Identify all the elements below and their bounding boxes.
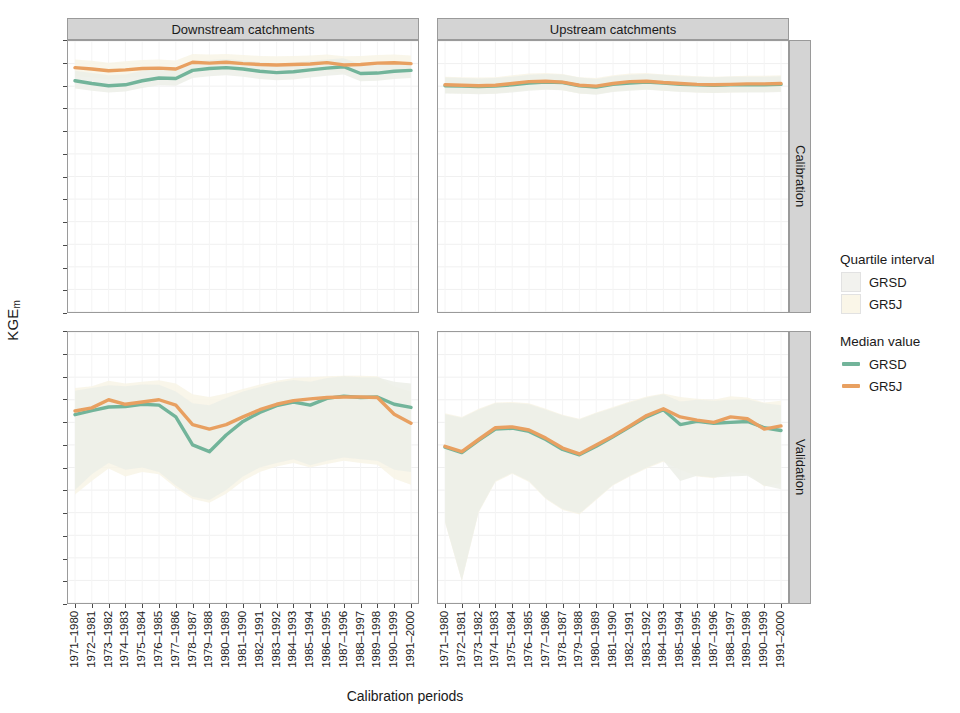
- panel-plot-area: [68, 332, 418, 603]
- x-tick-mark: [92, 604, 93, 608]
- x-tick-label: 1985–1994: [303, 611, 315, 668]
- x-tick-mark: [512, 604, 513, 608]
- x-tick-label: 1981–1990: [606, 611, 618, 668]
- legend-line-glyph: [842, 384, 860, 388]
- x-tick-mark: [747, 604, 748, 608]
- y-tick-mark: [63, 199, 67, 200]
- legend-item[interactable]: GRSD: [840, 271, 935, 293]
- y-tick-mark: [63, 177, 67, 178]
- x-tick-mark: [596, 604, 597, 608]
- x-tick-mark: [125, 604, 126, 608]
- x-tick-mark: [293, 604, 294, 608]
- legend-item[interactable]: GR5J: [840, 293, 935, 315]
- y-tick-mark: [63, 377, 67, 378]
- x-tick-mark: [613, 604, 614, 608]
- x-tick-mark: [697, 604, 698, 608]
- y-tick-mark: [63, 40, 67, 41]
- x-tick-mark: [109, 604, 110, 608]
- legend-swatch-icon: [840, 271, 862, 293]
- x-tick-label: 1972–1981: [455, 611, 467, 668]
- x-tick-mark: [546, 604, 547, 608]
- x-tick-mark: [209, 604, 210, 608]
- y-tick-mark: [63, 536, 67, 537]
- x-tick-label: 1971–1980: [68, 611, 80, 668]
- strip-label-validation: Validation: [789, 331, 811, 604]
- x-tick-label: 1973–1982: [102, 611, 114, 668]
- legend-item[interactable]: GRSD: [840, 353, 920, 375]
- x-tick-mark: [462, 604, 463, 608]
- x-tick-label: 1979–1988: [202, 611, 214, 668]
- x-tick-label: 1982–1991: [253, 611, 265, 668]
- y-axis-title: KGEm: [4, 300, 22, 341]
- x-tick-mark: [344, 604, 345, 608]
- panel-plot-area: [438, 41, 788, 312]
- x-tick-mark: [377, 604, 378, 608]
- x-tick-label: 1982–1991: [623, 611, 635, 668]
- strip-label-downstream: Downstream catchments: [67, 18, 419, 40]
- panel-calibration-downstream: [67, 40, 419, 313]
- x-tick-label: 1984–1993: [286, 611, 298, 668]
- y-tick-mark: [63, 513, 67, 514]
- legend-item[interactable]: GR5J: [840, 375, 920, 397]
- x-tick-label: 1976–1985: [152, 611, 164, 668]
- strip-label-calibration-text: Calibration: [793, 145, 808, 207]
- x-tick-mark: [159, 604, 160, 608]
- x-tick-label: 1977–1986: [169, 611, 181, 668]
- x-tick-label: 1980–1989: [219, 611, 231, 668]
- x-tick-mark: [663, 604, 664, 608]
- x-tick-label: 1974–1983: [488, 611, 500, 668]
- x-tick-mark: [630, 604, 631, 608]
- x-tick-label: 1987–1996: [707, 611, 719, 668]
- legend-line-glyph: [842, 362, 860, 366]
- x-tick-mark: [226, 604, 227, 608]
- x-tick-mark: [680, 604, 681, 608]
- y-tick-mark: [63, 559, 67, 560]
- x-tick-mark: [479, 604, 480, 608]
- x-tick-label: 1974–1983: [118, 611, 130, 668]
- x-tick-label: 1987–1996: [337, 611, 349, 668]
- x-tick-label: 1971–1980: [438, 611, 450, 668]
- x-tick-label: 1990–1999: [387, 611, 399, 668]
- x-tick-mark: [260, 604, 261, 608]
- x-tick-label: 1983–1992: [640, 611, 652, 668]
- x-tick-label: 1983–1992: [270, 611, 282, 668]
- legend-swatch-glyph: [841, 294, 861, 314]
- x-tick-label: 1972–1981: [85, 611, 97, 668]
- x-tick-mark: [193, 604, 194, 608]
- x-tick-label: 1989–1998: [370, 611, 382, 668]
- x-tick-mark: [764, 604, 765, 608]
- y-tick-mark: [63, 445, 67, 446]
- x-tick-mark: [563, 604, 564, 608]
- x-tick-mark: [529, 604, 530, 608]
- x-tick-mark: [176, 604, 177, 608]
- y-axis-title-text: KGE: [4, 309, 21, 341]
- x-tick-mark: [714, 604, 715, 608]
- x-tick-label: 1980–1989: [589, 611, 601, 668]
- y-tick-mark: [63, 354, 67, 355]
- panel-validation-upstream: [437, 331, 789, 604]
- legend-item-label: GR5J: [869, 297, 902, 312]
- legend-line-icon: [840, 353, 862, 375]
- x-tick-mark: [411, 604, 412, 608]
- y-axis-title-subscript: m: [11, 300, 22, 309]
- x-tick-mark: [361, 604, 362, 608]
- legend-item-label: GR5J: [869, 379, 902, 394]
- legend-quartile-interval: Quartile interval GRSDGR5J: [840, 252, 935, 315]
- x-axis-title: Calibration periods: [0, 688, 810, 704]
- y-tick-mark: [63, 63, 67, 64]
- legend-quartile-items: GRSDGR5J: [840, 271, 935, 315]
- legend-swatch-icon: [840, 293, 862, 315]
- legend-line-icon: [840, 375, 862, 397]
- y-tick-mark: [63, 245, 67, 246]
- x-tick-label: 1975–1984: [505, 611, 517, 668]
- panel-validation-downstream: [67, 331, 419, 604]
- legend-item-label: GRSD: [869, 357, 907, 372]
- x-tick-mark: [75, 604, 76, 608]
- y-tick-mark: [63, 331, 67, 332]
- y-tick-mark: [63, 222, 67, 223]
- legend-item-label: GRSD: [869, 275, 907, 290]
- x-tick-mark: [579, 604, 580, 608]
- y-tick-mark: [63, 313, 67, 314]
- x-tick-mark: [647, 604, 648, 608]
- y-tick-mark: [63, 422, 67, 423]
